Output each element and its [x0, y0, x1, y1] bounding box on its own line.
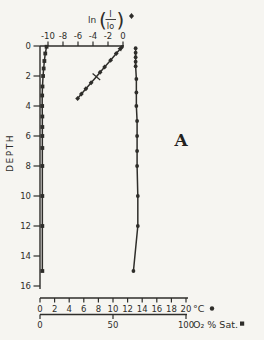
temperature-data-point	[134, 64, 138, 68]
depth-tick-label: 6	[26, 131, 31, 141]
temperature-data-point	[135, 119, 139, 123]
light-axis-function-label: ln	[88, 15, 96, 25]
temp-series-marker-icon	[210, 306, 214, 310]
temperature-line	[133, 48, 137, 271]
light-tick-label: 0	[120, 31, 125, 41]
oxygen-tick-label: 100	[178, 320, 194, 330]
oxygen_saturation-data-point	[41, 74, 45, 78]
temp-tick-label: 6	[81, 304, 86, 314]
temp-tick-label: 18	[166, 304, 177, 314]
light-tick-label: -10	[41, 31, 55, 41]
light-axis-close-paren: )	[117, 8, 125, 32]
temp-axis-label: °C	[193, 303, 205, 314]
temp-tick-label: 4	[66, 304, 71, 314]
oxygen_saturation-data-point	[40, 269, 44, 273]
light-axis-numerator: I	[109, 10, 111, 19]
temp-tick-label: 8	[96, 304, 101, 314]
oxygen_saturation-data-point	[43, 52, 47, 56]
oxygen_saturation-data-point	[40, 146, 44, 150]
oxygen_saturation-data-point	[40, 94, 44, 98]
temperature-data-point	[134, 55, 138, 59]
depth-profile-chart: 0246810121416-10-8-6-4-20ln(IIo)02468101…	[0, 0, 264, 340]
temp-tick-label: 20	[181, 304, 192, 314]
oxygen_saturation-data-point	[40, 115, 44, 119]
oxygen_saturation-line	[42, 47, 46, 271]
temperature-data-point	[134, 104, 138, 108]
depth-tick-label: 4	[26, 101, 31, 111]
temp-tick-label: 16	[151, 304, 162, 314]
temperature-data-point	[135, 149, 139, 153]
oxygen_saturation-data-point	[40, 224, 44, 228]
depth-axis-label: DEPTH	[5, 134, 15, 172]
oxygen_saturation-data-point	[40, 194, 44, 198]
temperature-data-point	[132, 269, 136, 273]
temperature-data-point	[136, 194, 140, 198]
temperature-data-point	[135, 164, 139, 168]
depth-tick-label: 0	[26, 41, 31, 51]
depth-tick-label: 14	[20, 251, 31, 261]
depth-tick-label: 8	[26, 161, 31, 171]
oxygen_saturation-data-point	[40, 125, 44, 129]
temperature-data-point	[134, 77, 138, 81]
light-tick-label: -6	[74, 31, 82, 41]
temp-tick-label: 2	[52, 304, 57, 314]
temp-tick-label: 12	[122, 304, 133, 314]
chart-render-root: 0246810121416-10-8-6-4-20ln(IIo)02468101…	[20, 8, 244, 330]
light-tick-label: -4	[89, 31, 97, 41]
oxygen-series-marker-icon	[240, 322, 244, 326]
depth-tick-label: 2	[26, 71, 31, 81]
oxygen_saturation-data-point	[41, 85, 45, 89]
temp-tick-label: 0	[37, 304, 42, 314]
oxygen_saturation-data-point	[45, 45, 49, 49]
oxygen_saturation-data-point	[40, 104, 44, 108]
oxygen-axis-label: O₂ % Sat.	[193, 319, 238, 330]
depth-tick-label: 12	[20, 221, 31, 231]
light-series-marker-icon	[129, 13, 134, 19]
temp-tick-label: 14	[137, 304, 148, 314]
oxygen_saturation-data-point	[42, 59, 46, 63]
oxygen-tick-label: 0	[37, 320, 42, 330]
oxygen-tick-label: 50	[108, 320, 119, 330]
temperature-data-point	[135, 134, 139, 138]
figure-panel: 0246810121416-10-8-6-4-20ln(IIo)02468101…	[0, 0, 264, 340]
depth-tick-label: 16	[20, 281, 31, 291]
temperature-data-point	[134, 60, 138, 64]
oxygen_saturation-data-point	[40, 164, 44, 168]
temperature-data-point	[134, 51, 138, 55]
temperature-data-point	[134, 91, 138, 95]
temperature-data-point	[136, 224, 140, 228]
light-axis-denominator: Io	[107, 22, 114, 31]
temperature-data-point	[134, 46, 138, 50]
temp-tick-label: 10	[108, 304, 119, 314]
depth-tick-label: 10	[20, 191, 31, 201]
oxygen_saturation-data-point	[42, 67, 46, 71]
panel-label: A	[173, 130, 188, 150]
light-tick-label: -8	[59, 31, 67, 41]
light-tick-label: -2	[104, 31, 112, 41]
oxygen_saturation-data-point	[40, 134, 44, 138]
